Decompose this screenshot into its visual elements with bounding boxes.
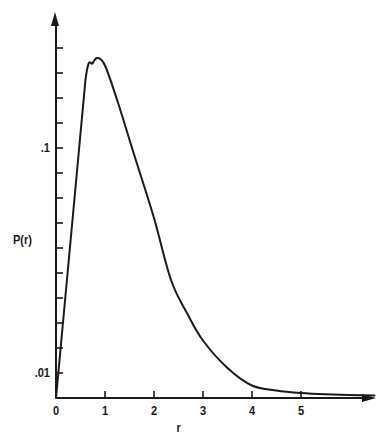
x-tick-label: 0 — [48, 404, 65, 417]
x-tick-label: 5 — [293, 404, 310, 417]
x-tick-label: 2 — [146, 404, 163, 417]
axes — [56, 20, 366, 398]
y-axis-arrow-icon — [51, 12, 59, 26]
data-curve — [56, 58, 375, 398]
y-tick-label: .01 — [16, 366, 50, 379]
x-tick-label: 3 — [195, 404, 212, 417]
x-ticks — [105, 391, 301, 398]
x-tick-label: 4 — [244, 404, 261, 417]
x-tick-label: 1 — [97, 404, 114, 417]
chart-canvas — [0, 0, 384, 439]
y-tick-label: .1 — [16, 141, 50, 154]
x-axis-label: r — [176, 421, 180, 434]
y-axis-label: P(r) — [13, 233, 32, 246]
